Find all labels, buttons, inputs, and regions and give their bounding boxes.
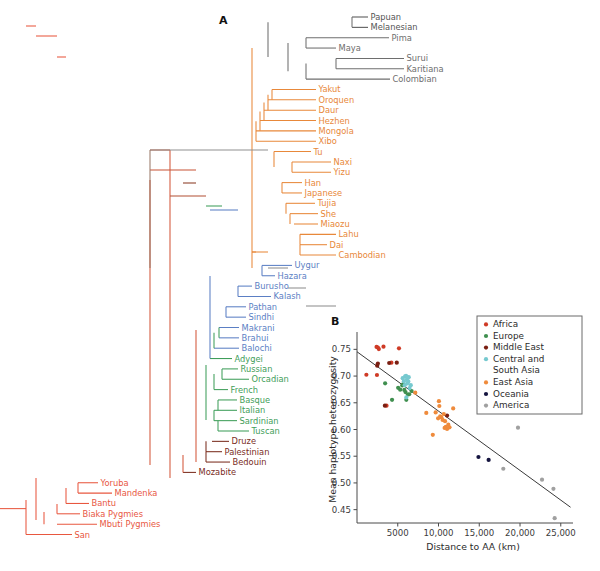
legend-marker [484,404,488,408]
legend-label: Europe [493,331,524,341]
legend-label: Middle East [493,342,544,352]
tree-tip-label: Hazara [278,271,307,281]
tree-tip-label: Sardinian [240,416,279,426]
tree-tip-label: Balochi [242,343,272,353]
panel-a-label: A [219,14,228,27]
scatter-point [404,395,408,399]
scatter-point [437,404,441,408]
tree-tip-label: Burusho [255,281,289,291]
scatter-point [383,381,387,385]
tree-tip-label: Naxi [334,157,353,167]
tree-tip-label: Pima [392,33,412,43]
tree-tip-label: Lahu [339,229,359,239]
scatter-point [407,375,411,379]
x-axis-tick-label: 5000 [387,528,409,538]
legend-marker [484,346,488,350]
legend-marker [484,380,488,384]
scatter-point [476,455,480,459]
tree-tip-label: Kalash [274,291,301,301]
x-axis-tick-label: 25,000 [546,528,576,538]
legend-label: America [493,400,529,410]
tree-tip-label: French [231,385,259,395]
tree-tip-label: Basque [240,395,271,405]
y-axis-title: Mean haplotype heterozygosity [327,356,338,503]
scatter-point [553,516,557,520]
x-axis-tick-label: 15,000 [464,528,494,538]
scatter-point [364,373,368,377]
tree-tip-label: Yoruba [100,478,129,488]
legend-label: Oceania [493,389,529,399]
tree-tip-label: Makrani [242,323,275,333]
tree-tip-label: Mbuti Pygmies [100,519,161,529]
tree-tip-label: Maya [339,43,361,53]
scatter-point [383,404,387,408]
tree-tip-label: Tuscan [251,426,280,436]
scatter-point [442,412,446,416]
scatter-point [387,361,391,365]
scatter-point [540,478,544,482]
tree-tip-label: Yizu [333,167,351,177]
tree-tip-label: Hezhen [319,116,350,126]
legend-marker [484,392,488,396]
tree-tip-label: Melanesian [371,22,418,32]
scatter-point [424,411,428,415]
tree-tip-label: Pathan [249,302,278,312]
tree-tip-label: Karitiana [407,64,444,74]
tree-tip-label: Sindhi [249,312,275,322]
scatter-point [451,406,455,410]
tree-tip-label: Oroquen [319,95,355,105]
tree-tip-label: Xibo [319,136,337,146]
scatter-point [431,433,435,437]
scatter-point [390,398,394,402]
tree-tip-label: Yakut [318,84,342,94]
tree-tip-label: Japanese [304,188,343,198]
tree-tip-label: Mozabite [199,467,237,477]
legend-marker [484,322,488,326]
scatter-point [443,426,447,430]
tree-tip-label: Brahui [242,333,269,343]
tree-tip-label: Daur [319,105,340,115]
scatter-point [487,458,491,462]
legend-label: South Asia [493,365,540,375]
legend-label: East Asia [493,377,533,387]
tree-tip-label: Papuan [371,12,402,22]
scatter-point [434,410,438,414]
scatter-point [376,361,380,365]
tree-tip-label: Mandenka [115,488,158,498]
legend-marker [484,334,488,338]
x-axis-tick-label: 20,000 [505,528,535,538]
scatter-point [413,391,417,395]
tree-tip-label: Han [305,178,322,188]
scatter-point [377,347,381,351]
scatter-point [381,345,385,349]
tree-tip-label: Tujia [317,198,337,208]
tree-tip-label: Druze [232,436,257,446]
legend-label: Central and [493,354,544,364]
tree-tip-label: Palestinian [225,447,270,457]
scatter-point [395,361,399,365]
tree-tip-label: Mongola [319,126,354,136]
y-axis-tick-label: 0.75 [332,344,351,354]
legend-marker [484,357,488,361]
scatter-point [443,419,447,423]
scatter-point [436,416,440,420]
x-axis-title: Distance to AA (km) [426,541,520,552]
x-axis-tick-label: 10,000 [423,528,453,538]
tree-tip-label: Orcadian [252,374,289,384]
tree-tip-label: Italian [240,405,266,415]
tree-tip-label: Bedouin [233,457,267,467]
scatter-point [516,426,520,430]
tree-tip-label: Miaozu [321,219,350,229]
scatter-point [397,346,401,350]
panel-b-label: B [331,315,339,328]
tree-tip-label: Cambodian [339,250,386,260]
tree-tip-label: Adygei [235,354,263,364]
tree-tip-label: Colombian [393,74,437,84]
tree-tip-label: Bantu [92,498,117,508]
scatter-point [398,388,402,392]
scatter-point [406,379,410,383]
scatter-point [375,373,379,377]
tree-tip-label: San [75,530,91,540]
tree-tip-label: Uygur [295,260,321,270]
tree-tip-label: Surui [407,53,429,63]
